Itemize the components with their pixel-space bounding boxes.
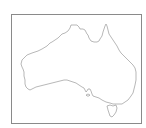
tasmania-coastline	[107, 105, 117, 117]
australia-map	[0, 0, 146, 128]
mainland-coastline	[21, 24, 136, 104]
kangaroo-island-coastline	[86, 94, 90, 96]
